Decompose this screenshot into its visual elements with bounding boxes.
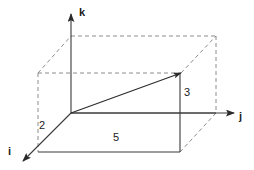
vector-diagram-figure: k j i 2 3 5 (0, 0, 254, 170)
measurement-label-k: 3 (184, 86, 190, 98)
measurement-label-i: 2 (39, 119, 45, 131)
vector-diagram-canvas: k j i 2 3 5 (0, 0, 254, 170)
k-axis-label: k (79, 6, 86, 18)
measurement-label-j: 5 (113, 131, 119, 143)
j-axis-label: j (238, 110, 242, 122)
i-axis-label: i (8, 145, 11, 157)
